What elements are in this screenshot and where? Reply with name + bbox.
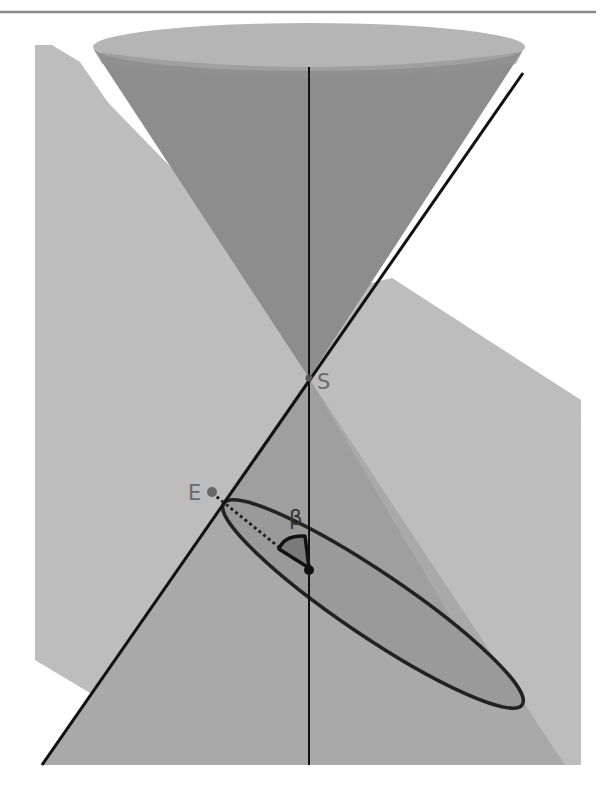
label-beta: β	[289, 506, 302, 530]
double-cone-diagram: S E β	[0, 0, 613, 799]
apex-point	[306, 375, 313, 382]
ellipse-center-point	[304, 565, 314, 575]
label-apex-s: S	[317, 370, 330, 394]
label-point-e: E	[188, 481, 201, 505]
point-e	[207, 487, 217, 497]
